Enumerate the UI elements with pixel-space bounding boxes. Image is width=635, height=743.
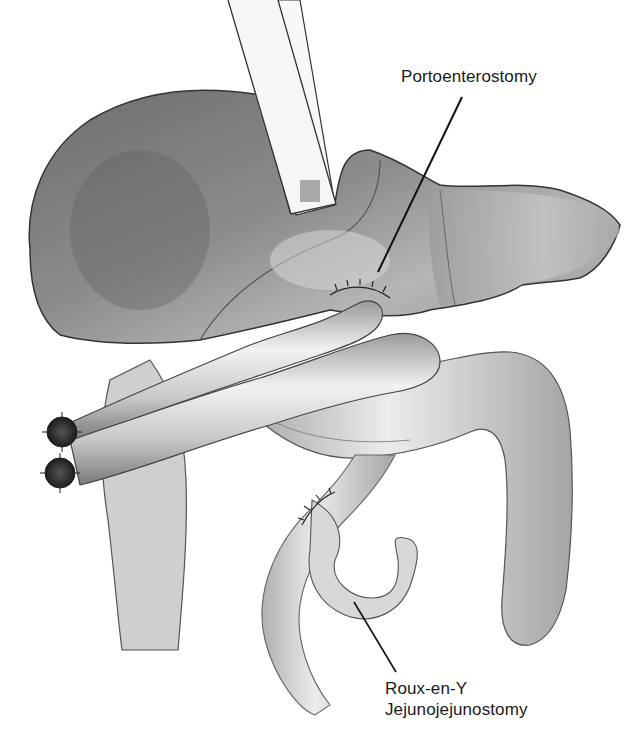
- roux-descending-limb: [262, 455, 417, 715]
- label-roux-line1: Roux-en-Y: [385, 678, 528, 699]
- label-roux-line2: Jejunojejunostomy: [385, 699, 528, 720]
- label-portoenterostomy: Portoenterostomy: [401, 66, 537, 87]
- surgical-illustration: [0, 0, 635, 743]
- liver: [29, 90, 620, 343]
- label-roux-en-y-jejunojejunostomy: Roux-en-Y Jejunojejunostomy: [385, 678, 528, 720]
- stapled-end-lower: [45, 458, 75, 488]
- stapled-end-upper: [47, 417, 77, 447]
